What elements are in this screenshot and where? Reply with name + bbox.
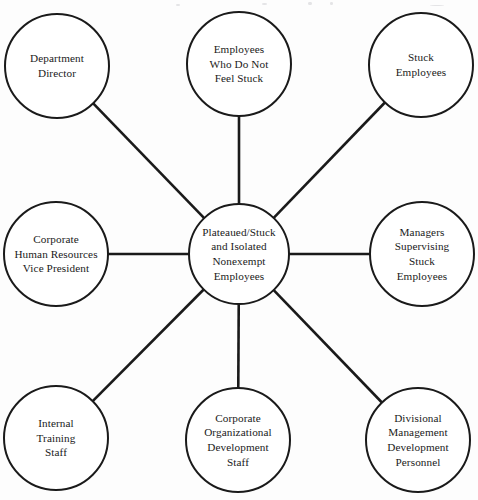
node-circle-stuck-employees[interactable] <box>369 13 473 117</box>
node-circle-center-node[interactable] <box>189 204 289 304</box>
node-circle-managers-supervising-stuck-employees[interactable] <box>370 202 474 306</box>
node-circle-internal-training-staff[interactable] <box>4 386 108 490</box>
scan-artifact <box>176 4 180 6</box>
connector-stuck-employees <box>273 102 386 219</box>
node-circle-corporate-organizational-development-staff[interactable] <box>186 388 290 492</box>
diagram-canvas: Department DirectorEmployees Who Do Not … <box>0 0 478 500</box>
diagram-svg <box>0 0 478 500</box>
scan-artifact <box>262 3 267 5</box>
node-circle-divisional-management-development-personnel[interactable] <box>366 388 470 492</box>
connector-department-director <box>92 103 204 219</box>
connector-internal-training-staff <box>92 289 204 402</box>
scan-artifact <box>430 5 444 6</box>
node-circle-employees-who-do-not-feel-stuck[interactable] <box>187 12 291 116</box>
connector-divisional-management-development-personnel <box>273 289 383 403</box>
node-circle-department-director[interactable] <box>5 14 109 118</box>
node-circle-corporate-human-resources-vice-president[interactable] <box>4 202 108 306</box>
scan-artifact <box>308 2 312 5</box>
circle-layer <box>4 12 474 492</box>
scan-artifact <box>330 2 333 5</box>
